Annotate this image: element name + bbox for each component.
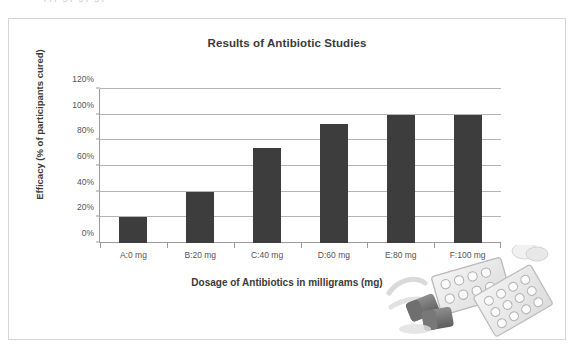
- x-axis-tick-label: B:20 mg: [184, 250, 216, 260]
- bar: [186, 192, 214, 243]
- x-axis-tick-label: C:40 mg: [251, 250, 283, 260]
- y-axis-tick-label: 20%: [77, 202, 94, 212]
- bar: [320, 124, 348, 243]
- y-axis-tick-label: 0%: [82, 228, 94, 238]
- chart-page: ppp g p g p g p Results of Antibiotic St…: [0, 0, 578, 356]
- bar: [387, 115, 415, 243]
- y-axis-title: Efficacy (% of participants cured): [34, 45, 45, 205]
- x-axis-tick-mark: [100, 243, 101, 248]
- x-axis-tick-mark: [301, 243, 302, 248]
- bar-series: [100, 89, 501, 243]
- bar: [119, 217, 147, 243]
- bar: [454, 115, 482, 243]
- pills-blister-pack-photo: [385, 245, 559, 337]
- x-axis-tick-mark: [167, 243, 168, 248]
- y-axis-tick-label: 40%: [77, 177, 94, 187]
- x-axis-tick-mark: [367, 243, 368, 248]
- y-axis-tick-label: 80%: [77, 125, 94, 135]
- chart-title: Results of Antibiotic Studies: [9, 37, 565, 49]
- x-axis-tick-label: A:0 mg: [120, 250, 147, 260]
- y-axis-tick-label: 100%: [72, 100, 94, 110]
- x-axis-tick-mark: [234, 243, 235, 248]
- x-axis-tick-label: D:60 mg: [318, 250, 350, 260]
- plot-area: 0%20%40%60%80%100%120% A:0 mgB:20 mgC:40…: [100, 89, 501, 243]
- figure-frame: Results of Antibiotic Studies Efficacy (…: [8, 18, 566, 340]
- y-axis-tick-label: 60%: [77, 151, 94, 161]
- cropped-top-text: ppp g p g p g p: [44, 0, 396, 10]
- y-axis-tick-label: 120%: [72, 74, 94, 84]
- bar: [253, 148, 281, 243]
